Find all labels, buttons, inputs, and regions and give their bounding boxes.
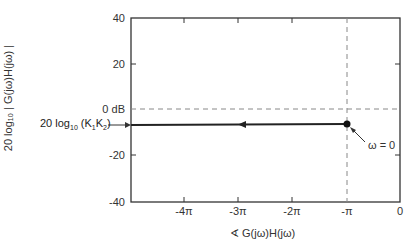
x-tick-minuspi: -π — [341, 205, 353, 217]
x-tick-0: 0 — [397, 205, 403, 217]
y-tick-20: 20 — [113, 58, 125, 70]
direction-arrow-icon — [238, 121, 246, 128]
gain-text-end: ) — [107, 117, 111, 129]
omega-label: ω = 0 — [368, 139, 395, 151]
gain-k: K — [96, 117, 103, 129]
y-axis-label: 20 log₁₀ | G(jω)H(jω) | — [2, 0, 16, 198]
y-tick-0db: 0 dB — [102, 103, 125, 115]
y-tick-40: 40 — [113, 12, 125, 24]
y-tick-minus20: -20 — [109, 149, 125, 161]
gain-annotation: 20 log10 (K1K2) — [40, 117, 111, 131]
x-tick-minus2pi: -2π — [283, 205, 301, 217]
gain-arrowhead-icon — [125, 122, 131, 128]
x-axis-label: ∢ G(jω)H(jω) — [230, 227, 295, 240]
x-ticks — [184, 18, 292, 202]
y-tick-minus40: -40 — [109, 196, 125, 208]
x-tick-minus4pi: -4π — [175, 205, 193, 217]
gain-subscript: 10 — [70, 124, 78, 131]
gain-text-mid: (K — [78, 117, 92, 129]
plot-frame — [131, 18, 400, 202]
x-tick-minus3pi: -3π — [229, 205, 247, 217]
gain-text: 20 log — [40, 117, 70, 129]
omega-zero-point — [344, 121, 351, 128]
